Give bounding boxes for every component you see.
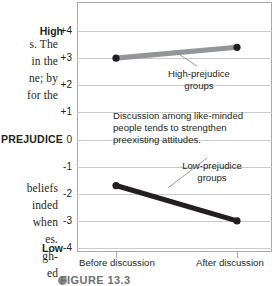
series-data-point (112, 182, 119, 189)
y-axis-tick-label: -4 (46, 242, 72, 253)
x-axis-label-after: After discussion (196, 257, 264, 268)
series-line (116, 186, 237, 221)
y-axis-tick-label: -3 (46, 215, 72, 226)
y-axis-tick-label: +3 (46, 52, 72, 63)
annotation-low-prejudice: Low-prejudice groups (168, 160, 256, 183)
series-data-point (233, 44, 240, 51)
series-line (116, 47, 237, 58)
y-axis-tick-label: -1 (46, 161, 72, 172)
figure-caption: FIGURE 13.3 (60, 274, 130, 286)
y-axis-tick-label: +2 (46, 79, 72, 90)
series-data-point (112, 55, 119, 62)
body-line: s. The (0, 36, 58, 53)
annotation-callout: Discussion among like-minded people tend… (113, 110, 263, 147)
body-line: inded (0, 197, 58, 214)
series-data-point (233, 217, 240, 224)
y-axis-tick-label: +1 (46, 106, 72, 117)
y-axis-tick-label: -2 (46, 188, 72, 199)
x-axis-label-before: Before discussion (79, 257, 155, 268)
y-axis-tick-label: +4 (46, 25, 72, 36)
annotation-high-prejudice: High-prejudice groups (155, 68, 243, 91)
body-line: ed (0, 265, 58, 282)
y-axis-tick-label: 0 (46, 134, 72, 145)
page-body-text-upper: s. The in the ne; by for the (0, 36, 58, 104)
